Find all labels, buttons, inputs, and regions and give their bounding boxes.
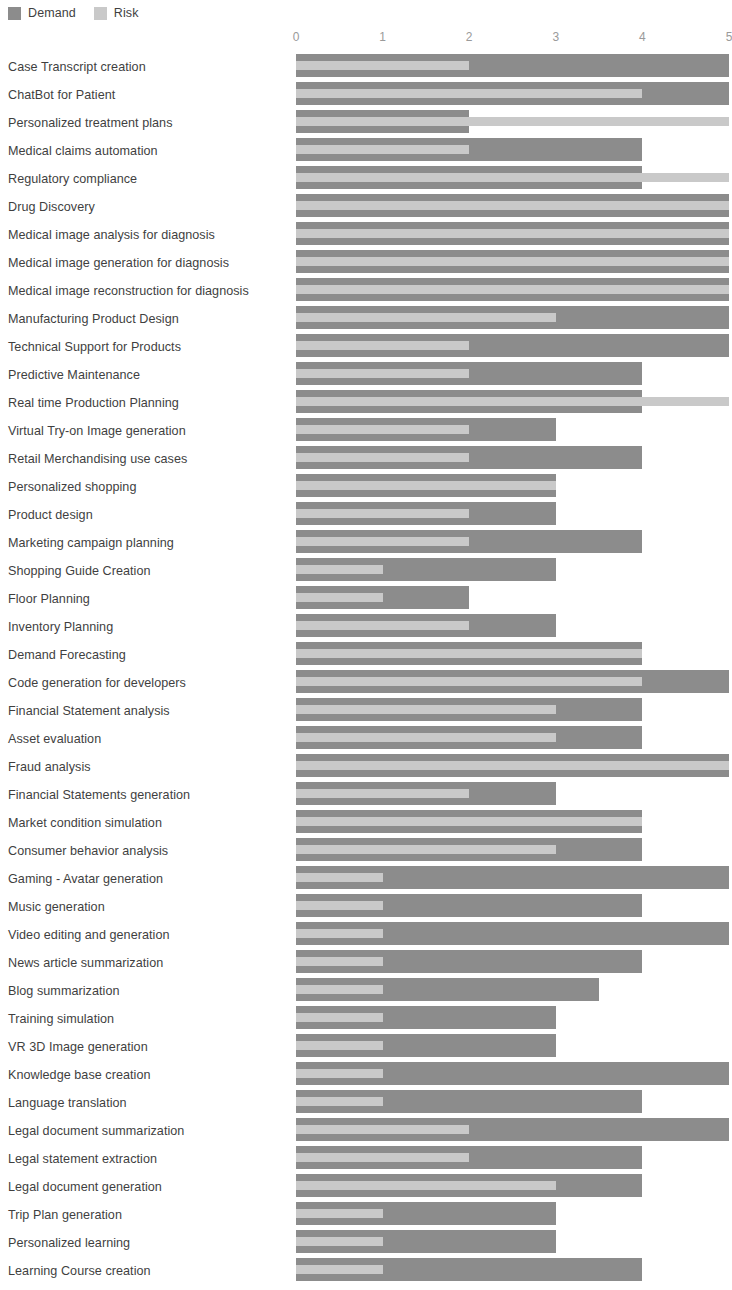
bar-risk[interactable] <box>296 145 469 154</box>
row-plot-area <box>296 473 729 501</box>
bar-risk[interactable] <box>296 89 642 98</box>
category-label: Personalized shopping <box>8 473 136 501</box>
row-plot-area <box>296 697 729 725</box>
chart-row: Floor Planning <box>0 585 731 613</box>
bar-risk[interactable] <box>296 761 729 770</box>
bar-risk[interactable] <box>296 481 556 490</box>
chart-row: Regulatory compliance <box>0 165 731 193</box>
category-label: Learning Course creation <box>8 1257 151 1285</box>
category-label: Legal document summarization <box>8 1117 184 1145</box>
category-label: Drug Discovery <box>8 193 95 221</box>
category-label: Product design <box>8 501 93 529</box>
bar-risk[interactable] <box>296 341 469 350</box>
bar-risk[interactable] <box>296 1125 469 1134</box>
bar-risk[interactable] <box>296 1013 383 1022</box>
bar-risk[interactable] <box>296 1181 556 1190</box>
chart-row: VR 3D Image generation <box>0 1033 731 1061</box>
chart-row: News article summarization <box>0 949 731 977</box>
bar-risk[interactable] <box>296 817 642 826</box>
category-label: Legal statement extraction <box>8 1145 157 1173</box>
bar-risk[interactable] <box>296 621 469 630</box>
bar-risk[interactable] <box>296 1069 383 1078</box>
category-label: Manufacturing Product Design <box>8 305 179 333</box>
bar-risk[interactable] <box>296 509 469 518</box>
bar-risk[interactable] <box>296 229 729 238</box>
bar-risk[interactable] <box>296 873 383 882</box>
row-plot-area <box>296 109 729 137</box>
row-plot-area <box>296 389 729 417</box>
row-plot-area <box>296 333 729 361</box>
chart-row: Music generation <box>0 893 731 921</box>
bar-risk[interactable] <box>296 313 556 322</box>
row-plot-area <box>296 865 729 893</box>
chart-row: Demand Forecasting <box>0 641 731 669</box>
chart-row: Case Transcript creation <box>0 53 731 81</box>
bar-risk[interactable] <box>296 453 469 462</box>
bar-risk[interactable] <box>296 1237 383 1246</box>
bar-risk[interactable] <box>296 61 469 70</box>
row-plot-area <box>296 221 729 249</box>
bar-risk[interactable] <box>296 173 729 182</box>
bar-risk[interactable] <box>296 565 383 574</box>
chart-row: Gaming - Avatar generation <box>0 865 731 893</box>
row-plot-area <box>296 165 729 193</box>
row-plot-area <box>296 1117 729 1145</box>
row-plot-area <box>296 137 729 165</box>
category-label: Fraud analysis <box>8 753 91 781</box>
bar-risk[interactable] <box>296 257 729 266</box>
category-label: Personalized learning <box>8 1229 130 1257</box>
bar-risk[interactable] <box>296 397 729 406</box>
chart-row: Blog summarization <box>0 977 731 1005</box>
row-plot-area <box>296 193 729 221</box>
chart-row: Personalized treatment plans <box>0 109 731 137</box>
category-label: Blog summarization <box>8 977 120 1005</box>
row-plot-area <box>296 249 729 277</box>
chart-row: Predictive Maintenance <box>0 361 731 389</box>
row-plot-area <box>296 809 729 837</box>
chart-row: Marketing campaign planning <box>0 529 731 557</box>
category-label: Legal document generation <box>8 1173 162 1201</box>
row-plot-area <box>296 277 729 305</box>
bar-risk[interactable] <box>296 649 642 658</box>
bar-risk[interactable] <box>296 733 556 742</box>
chart-row: Manufacturing Product Design <box>0 305 731 333</box>
bar-risk[interactable] <box>296 593 383 602</box>
chart-row: Real time Production Planning <box>0 389 731 417</box>
legend-label-demand: Demand <box>28 6 76 20</box>
category-label: Financial Statement analysis <box>8 697 170 725</box>
bar-risk[interactable] <box>296 705 556 714</box>
category-label: Financial Statements generation <box>8 781 190 809</box>
category-label: Predictive Maintenance <box>8 361 140 389</box>
bar-risk[interactable] <box>296 117 729 126</box>
chart-row: Video editing and generation <box>0 921 731 949</box>
bar-risk[interactable] <box>296 201 729 210</box>
bar-risk[interactable] <box>296 425 469 434</box>
bar-risk[interactable] <box>296 285 729 294</box>
legend-item-risk[interactable]: Risk <box>94 6 139 20</box>
row-plot-area <box>296 949 729 977</box>
row-plot-area <box>296 1145 729 1173</box>
legend-item-demand[interactable]: Demand <box>8 6 76 20</box>
bar-risk[interactable] <box>296 1209 383 1218</box>
bar-risk[interactable] <box>296 1265 383 1274</box>
bar-risk[interactable] <box>296 1041 383 1050</box>
bar-risk[interactable] <box>296 789 469 798</box>
category-label: Shopping Guide Creation <box>8 557 151 585</box>
chart-row: Legal statement extraction <box>0 1145 731 1173</box>
bar-risk[interactable] <box>296 901 383 910</box>
chart-row: Retail Merchandising use cases <box>0 445 731 473</box>
bar-risk[interactable] <box>296 1153 469 1162</box>
bar-risk[interactable] <box>296 537 469 546</box>
category-label: Code generation for developers <box>8 669 186 697</box>
bar-risk[interactable] <box>296 677 642 686</box>
bar-risk[interactable] <box>296 929 383 938</box>
bar-risk[interactable] <box>296 957 383 966</box>
bar-risk[interactable] <box>296 985 383 994</box>
row-plot-area <box>296 1257 729 1285</box>
row-plot-area <box>296 977 729 1005</box>
category-label: Trip Plan generation <box>8 1201 122 1229</box>
bar-risk[interactable] <box>296 1097 383 1106</box>
category-label: Technical Support for Products <box>8 333 181 361</box>
bar-risk[interactable] <box>296 845 556 854</box>
bar-risk[interactable] <box>296 369 469 378</box>
